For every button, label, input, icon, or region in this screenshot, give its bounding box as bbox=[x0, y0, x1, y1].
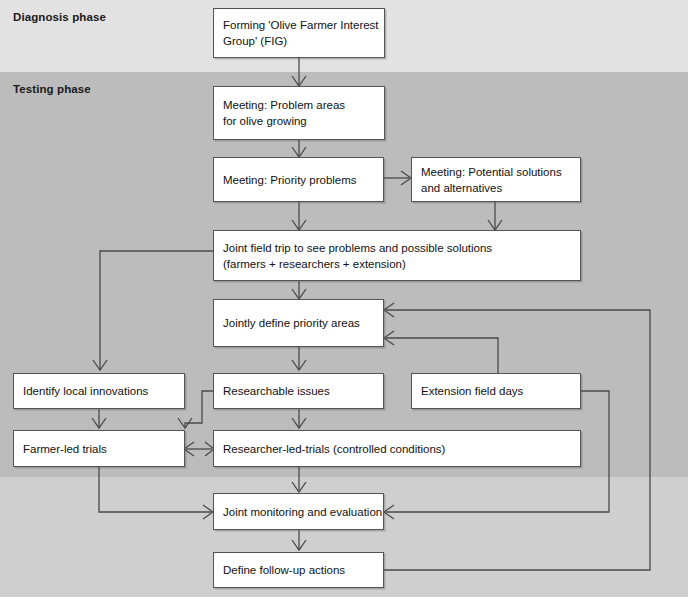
testing-phase-label: Testing phase bbox=[13, 83, 91, 95]
node-farmer-led-trials[interactable]: Farmer-led trials bbox=[13, 430, 185, 467]
node-line: Group' (FIG) bbox=[223, 33, 375, 49]
node-line: Jointly define priority areas bbox=[223, 315, 374, 331]
node-define-follow-up-actions[interactable]: Define follow-up actions bbox=[213, 552, 384, 588]
diagnosis-phase-label: Diagnosis phase bbox=[13, 11, 106, 23]
node-line: Meeting: Priority problems bbox=[223, 172, 374, 188]
flowchart-canvas: Diagnosis phase Testing phase bbox=[0, 0, 688, 604]
node-line: and alternatives bbox=[421, 180, 571, 196]
node-line: (farmers + researchers + extension) bbox=[223, 256, 571, 272]
node-line: Researcher-led-trials (controlled condit… bbox=[223, 441, 571, 457]
node-line: Identify local innovations bbox=[23, 383, 175, 399]
node-joint-field-trip[interactable]: Joint field trip to see problems and pos… bbox=[213, 230, 581, 281]
node-line: Meeting: Potential solutions bbox=[421, 164, 571, 180]
node-researcher-led-trials[interactable]: Researcher-led-trials (controlled condit… bbox=[213, 430, 581, 467]
node-line: Farmer-led trials bbox=[23, 441, 175, 457]
node-line: for olive growing bbox=[223, 113, 375, 129]
node-forming-fig[interactable]: Forming 'Olive Farmer Interest Group' (F… bbox=[213, 8, 385, 58]
node-jointly-define-priority-areas[interactable]: Jointly define priority areas bbox=[213, 299, 384, 347]
node-joint-monitoring-evaluation[interactable]: Joint monitoring and evaluation bbox=[213, 493, 384, 530]
node-line: Define follow-up actions bbox=[223, 562, 374, 578]
node-identify-local-innovations[interactable]: Identify local innovations bbox=[13, 373, 185, 409]
node-meeting-potential-solutions[interactable]: Meeting: Potential solutions and alterna… bbox=[411, 157, 581, 202]
node-meeting-priority-problems[interactable]: Meeting: Priority problems bbox=[213, 157, 384, 202]
node-line: Extension field days bbox=[421, 383, 571, 399]
node-line: Meeting: Problem areas bbox=[223, 97, 375, 113]
node-line: Researchable issues bbox=[223, 383, 374, 399]
node-extension-field-days[interactable]: Extension field days bbox=[411, 373, 581, 409]
node-researchable-issues[interactable]: Researchable issues bbox=[213, 373, 384, 409]
node-line: Joint monitoring and evaluation bbox=[223, 504, 374, 520]
node-line: Joint field trip to see problems and pos… bbox=[223, 240, 571, 256]
node-line: Forming 'Olive Farmer Interest bbox=[223, 17, 375, 33]
bottom-margin bbox=[0, 597, 688, 604]
node-meeting-problem-areas[interactable]: Meeting: Problem areas for olive growing bbox=[213, 86, 385, 140]
